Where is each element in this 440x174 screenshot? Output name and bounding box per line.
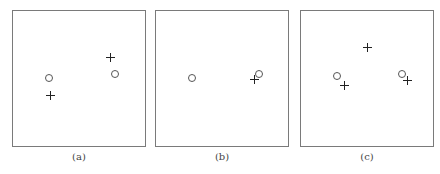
- panel-b: [155, 10, 289, 147]
- circle-marker: [45, 74, 53, 82]
- plus-marker: [46, 91, 55, 100]
- panel-caption-c: (c): [347, 151, 387, 162]
- circle-marker: [111, 70, 119, 78]
- panel-caption-b: (b): [202, 151, 242, 162]
- plus-marker: [250, 75, 259, 84]
- panel-caption-a: (a): [59, 151, 99, 162]
- circle-marker: [188, 74, 196, 82]
- plus-marker: [403, 76, 412, 85]
- plus-marker: [106, 53, 115, 62]
- panel-c: [300, 10, 434, 147]
- plus-marker: [340, 81, 349, 90]
- circle-marker: [333, 72, 341, 80]
- plus-marker: [363, 43, 372, 52]
- panel-a: [12, 10, 146, 147]
